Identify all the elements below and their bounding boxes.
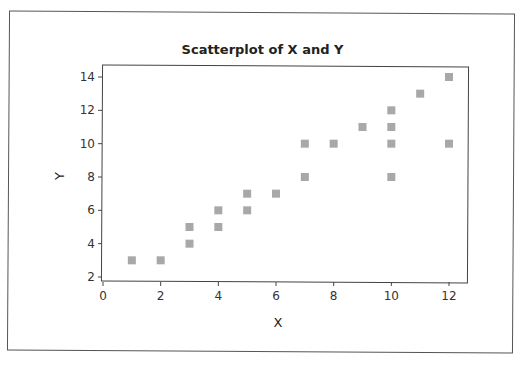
y-axis-label: Y [52, 172, 67, 181]
x-tick-label: 10 [384, 289, 399, 303]
data-point [387, 106, 395, 114]
x-tick-label: 2 [157, 289, 165, 303]
data-point [243, 190, 251, 198]
plot-border [101, 65, 468, 283]
data-point [186, 223, 194, 231]
x-tick-label: 8 [330, 289, 338, 303]
x-axis: 024681012 [99, 282, 456, 303]
y-tick-label: 14 [80, 70, 95, 84]
data-point [387, 173, 395, 181]
data-point [214, 223, 222, 231]
y-tick-label: 2 [87, 270, 95, 284]
data-point [445, 140, 453, 148]
data-point [301, 173, 309, 181]
x-tick-label: 4 [215, 289, 223, 303]
y-tick-label: 4 [87, 237, 95, 251]
data-point [186, 240, 194, 248]
data-point [214, 206, 222, 214]
plot-area [101, 65, 468, 283]
data-point [416, 90, 424, 98]
data-point [359, 123, 367, 131]
data-point [387, 123, 395, 131]
data-point [157, 256, 165, 264]
y-axis: 2468101214 [80, 70, 102, 284]
data-point [128, 256, 136, 264]
data-point [243, 206, 251, 214]
data-point [387, 140, 395, 148]
y-tick-label: 6 [87, 203, 95, 217]
x-tick-label: 0 [99, 289, 107, 303]
scatter-plot: 024681012 2468101214 X Y [0, 0, 525, 365]
y-tick-label: 8 [87, 170, 95, 184]
y-tick-label: 10 [80, 137, 95, 151]
x-tick-label: 12 [441, 289, 456, 303]
data-point [301, 140, 309, 148]
y-tick-label: 12 [80, 103, 95, 117]
data-point [272, 190, 280, 198]
x-tick-label: 6 [272, 289, 280, 303]
data-point [330, 140, 338, 148]
data-point [445, 73, 453, 81]
x-axis-label: X [274, 315, 283, 330]
